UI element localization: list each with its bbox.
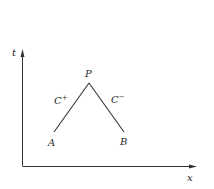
point-p-label: P [84,68,92,79]
c-plus-label: C+ [54,94,68,106]
t-axis-label: t [12,47,17,58]
t-axis-arrow-icon [21,49,25,57]
point-a-label: A [47,137,55,148]
c-minus-characteristic [89,83,124,132]
c-plus-characteristic [54,83,89,132]
c-minus-label: C− [111,93,125,105]
characteristics-diagram: t x P A B C+ C− [0,0,214,189]
diagram-svg: t x P A B C+ C− [0,0,214,189]
point-b-label: B [119,136,127,147]
x-axis-label: x [187,172,193,183]
x-axis-arrow-icon [189,165,197,169]
